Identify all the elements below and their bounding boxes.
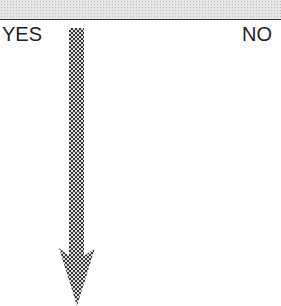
top-banner	[0, 0, 281, 20]
down-arrow-icon	[55, 28, 99, 306]
no-label: NO	[242, 24, 272, 44]
yes-label: YES	[2, 24, 42, 44]
